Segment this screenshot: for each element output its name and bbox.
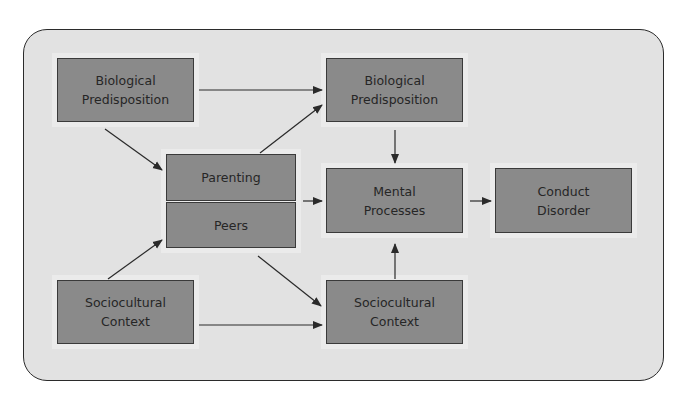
node-label: Sociocultural Context: [85, 293, 166, 331]
node-biological-predisposition-left: Biological Predisposition: [57, 58, 194, 122]
node-sociocultural-context-right: Sociocultural Context: [326, 280, 463, 344]
node-label: Biological Predisposition: [351, 71, 438, 109]
node-conduct-disorder: Conduct Disorder: [495, 168, 632, 233]
node-label: Sociocultural Context: [354, 293, 435, 331]
node-label: Biological Predisposition: [82, 71, 169, 109]
node-biological-predisposition-right: Biological Predisposition: [326, 58, 463, 122]
node-parenting: Parenting: [166, 154, 296, 201]
node-sociocultural-context-left: Sociocultural Context: [57, 280, 194, 344]
node-mental-processes: Mental Processes: [326, 168, 463, 233]
node-label: Conduct Disorder: [537, 182, 590, 220]
node-peers: Peers: [166, 202, 296, 248]
node-label: Mental Processes: [364, 182, 426, 220]
node-label: Parenting: [201, 168, 260, 187]
node-label: Peers: [214, 216, 248, 235]
